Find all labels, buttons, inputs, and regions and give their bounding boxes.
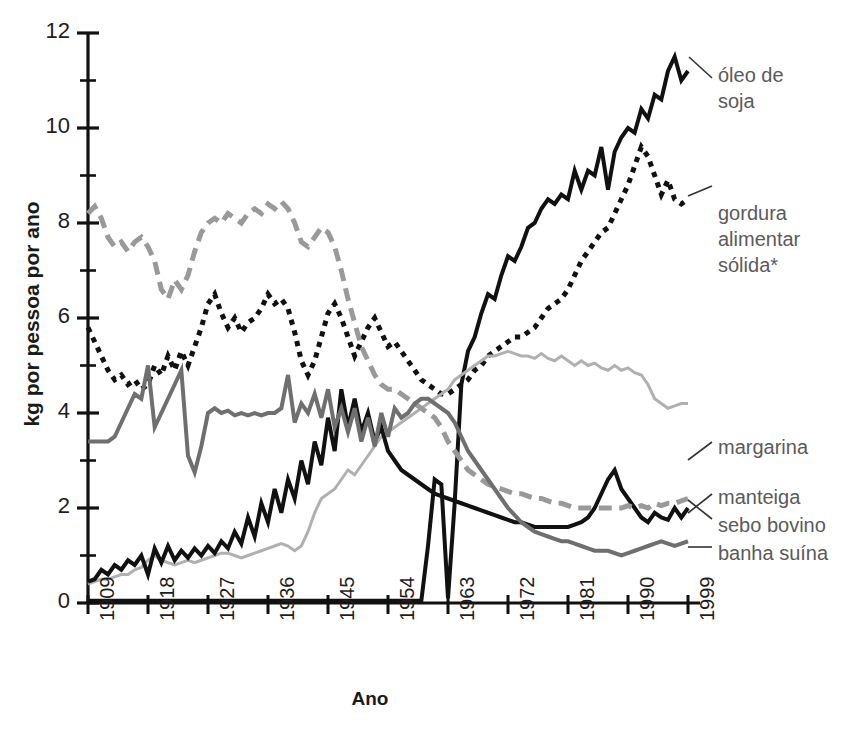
x-axis-title: Ano bbox=[0, 688, 740, 710]
x-tick-label: 1954 bbox=[396, 577, 419, 622]
leader-line bbox=[689, 57, 712, 78]
x-tick-label: 1936 bbox=[276, 577, 299, 622]
x-tick-label: 1927 bbox=[216, 577, 239, 622]
x-tick-label: 1990 bbox=[636, 577, 659, 622]
x-tick-label: 1999 bbox=[696, 577, 719, 622]
x-tick-label: 1972 bbox=[516, 577, 539, 622]
x-tick-label: 1945 bbox=[336, 577, 359, 622]
series-label-margarina: margarina bbox=[718, 434, 808, 460]
y-tick-label: 12 bbox=[30, 18, 70, 44]
series-label-manteiga: manteiga bbox=[718, 484, 800, 510]
series-label-banha-suína: banha suína bbox=[718, 540, 828, 566]
series-label-sebo-bovino: sebo bovino bbox=[718, 512, 826, 538]
y-tick-label: 10 bbox=[30, 113, 70, 139]
series-label-gordura-alimentar-sólida: gordura alimentar sólida* bbox=[718, 200, 800, 278]
leader-line bbox=[688, 442, 712, 460]
y-tick-label: 2 bbox=[30, 493, 70, 519]
leader-line bbox=[688, 186, 712, 196]
x-tick-label: 1981 bbox=[576, 577, 599, 622]
y-tick-label: 4 bbox=[30, 398, 70, 424]
chart-figure: kg por pessoa por ano Ano 02468101219091… bbox=[0, 0, 861, 730]
series-line-manteiga bbox=[88, 389, 688, 581]
series-line-gordura-alimentar-sólida bbox=[88, 147, 688, 394]
series-line-banha-suína bbox=[88, 366, 688, 556]
y-tick-label: 8 bbox=[30, 208, 70, 234]
x-tick-label: 1918 bbox=[156, 577, 179, 622]
series-line-óleo-de-soja bbox=[88, 57, 688, 601]
y-tick-label: 0 bbox=[30, 588, 70, 614]
x-tick-label: 1963 bbox=[456, 577, 479, 622]
x-tick-label: 1909 bbox=[96, 577, 119, 622]
series-label-óleo-de-soja: óleo de soja bbox=[718, 62, 784, 114]
y-tick-label: 6 bbox=[30, 303, 70, 329]
